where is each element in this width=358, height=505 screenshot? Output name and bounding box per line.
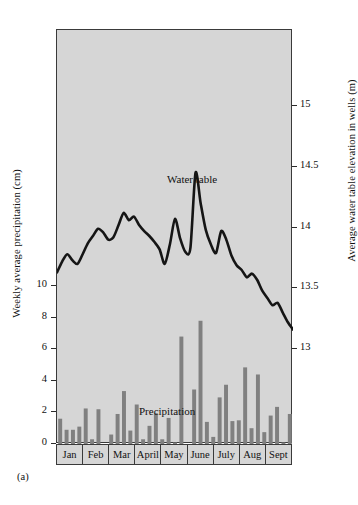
precipitation-bar bbox=[218, 397, 222, 444]
tick-mark bbox=[51, 348, 56, 349]
precipitation-bar bbox=[256, 374, 260, 444]
left-axis-title: Weekly average precipitation (cm) bbox=[11, 144, 22, 344]
water-table-annotation: Water table bbox=[167, 173, 217, 185]
precipitation-bar bbox=[237, 420, 241, 444]
tick-label: 6 bbox=[42, 342, 47, 353]
precipitation-bar bbox=[109, 435, 113, 444]
precipitation-bar bbox=[199, 321, 203, 444]
tick-label: 14 bbox=[300, 221, 311, 232]
precipitation-bar bbox=[148, 426, 152, 444]
tick-mark bbox=[292, 348, 297, 349]
precipitation-bar bbox=[262, 432, 266, 444]
precipitation-bar bbox=[96, 409, 100, 444]
tick-label: 8 bbox=[42, 311, 47, 322]
precipitation-bar bbox=[154, 413, 158, 444]
month-label: Aug bbox=[240, 445, 266, 464]
precipitation-bar bbox=[211, 437, 215, 444]
precipitation-bar bbox=[128, 431, 132, 444]
month-label: June bbox=[188, 445, 214, 464]
precipitation-bar bbox=[205, 422, 209, 444]
plot-area: Water table Precipitation bbox=[56, 29, 292, 443]
tick-label: 10 bbox=[37, 279, 48, 290]
month-label: May bbox=[161, 445, 187, 464]
panel-letter: (a) bbox=[17, 471, 29, 482]
tick-label: 2 bbox=[42, 405, 47, 416]
precipitation-bar bbox=[71, 430, 75, 444]
tick-mark bbox=[292, 287, 297, 288]
precipitation-bar bbox=[122, 391, 126, 444]
tick-label: 15 bbox=[300, 99, 311, 110]
month-label: Jan bbox=[57, 445, 83, 464]
tick-mark bbox=[292, 105, 297, 106]
precipitation-bar bbox=[288, 414, 292, 444]
precipitation-annotation: Precipitation bbox=[139, 405, 195, 417]
precipitation-bar bbox=[250, 428, 254, 444]
precipitation-bar bbox=[243, 367, 247, 444]
month-label: April bbox=[135, 445, 161, 464]
month-label: Feb bbox=[83, 445, 109, 464]
tick-label: 0 bbox=[42, 437, 47, 448]
month-label: Sept bbox=[266, 445, 291, 464]
month-label: July bbox=[214, 445, 240, 464]
precipitation-bar bbox=[224, 385, 228, 444]
precipitation-bar bbox=[230, 421, 234, 444]
precipitation-bar bbox=[77, 427, 81, 444]
tick-mark bbox=[292, 227, 297, 228]
tick-label: 13 bbox=[300, 342, 311, 353]
figure-panel: Water table Precipitation 0246810 Weekly… bbox=[0, 0, 358, 505]
tick-label: 13.5 bbox=[300, 281, 318, 292]
water-table-line bbox=[57, 172, 293, 330]
tick-label: 4 bbox=[42, 374, 47, 385]
tick-label: 14.5 bbox=[300, 160, 318, 171]
tick-mark bbox=[51, 317, 56, 318]
tick-mark bbox=[51, 411, 56, 412]
precipitation-bar bbox=[179, 337, 183, 444]
tick-mark bbox=[292, 166, 297, 167]
month-label: Mar bbox=[109, 445, 135, 464]
tick-mark bbox=[51, 285, 56, 286]
precipitation-bar bbox=[65, 430, 69, 444]
precipitation-bar bbox=[58, 419, 62, 444]
tick-mark bbox=[51, 380, 56, 381]
precipitation-bar bbox=[269, 416, 273, 444]
precipitation-bar bbox=[275, 407, 279, 444]
precipitation-bars bbox=[58, 321, 292, 444]
precipitation-bar bbox=[167, 418, 171, 444]
chart-canvas bbox=[57, 30, 293, 444]
month-axis: JanFebMarAprilMayJuneJulyAugSept bbox=[56, 444, 292, 465]
precipitation-bar bbox=[84, 408, 88, 444]
right-axis-title: Average water table elevation in wells (… bbox=[346, 56, 357, 286]
precipitation-bar bbox=[116, 414, 120, 444]
